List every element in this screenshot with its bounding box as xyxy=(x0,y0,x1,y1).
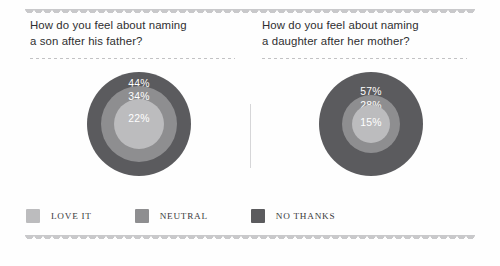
infographic-page: How do you feel about naming a son after… xyxy=(0,0,500,266)
ring-love-it: 22% xyxy=(114,99,164,149)
ring-love-it: 15% xyxy=(352,105,390,143)
legend-label: NO THANKS xyxy=(276,211,335,221)
legend-item-no-thanks: NO THANKS xyxy=(251,209,335,223)
panel-heading: How do you feel about naming a son after… xyxy=(30,18,248,49)
legend-label: NEUTRAL xyxy=(160,211,208,221)
legend-item-neutral: NEUTRAL xyxy=(135,209,208,223)
ring-label-love-it: 15% xyxy=(360,117,382,128)
heading-divider xyxy=(30,58,235,59)
ring-label-love-it: 22% xyxy=(128,113,150,124)
legend-swatch-neutral xyxy=(135,209,149,223)
bullseye-chart-son: 44% 34% 22% xyxy=(30,65,248,183)
legend: LOVE IT NEUTRAL NO THANKS xyxy=(26,209,378,223)
bullseye-chart-daughter: 57% 28% 15% xyxy=(262,65,480,183)
legend-item-love-it: LOVE IT xyxy=(26,209,92,223)
panel-son-after-father: How do you feel about naming a son after… xyxy=(30,18,248,183)
legend-swatch-no-thanks xyxy=(251,209,265,223)
panel-daughter-after-mother: How do you feel about naming a daughter … xyxy=(262,18,480,183)
legend-swatch-love-it xyxy=(26,209,40,223)
panel-heading: How do you feel about naming a daughter … xyxy=(262,18,480,49)
panel-divider xyxy=(250,104,251,168)
legend-label: LOVE IT xyxy=(51,211,92,221)
scalloped-border-bottom xyxy=(25,235,475,244)
heading-divider xyxy=(262,58,467,59)
scalloped-border-top xyxy=(25,9,475,18)
